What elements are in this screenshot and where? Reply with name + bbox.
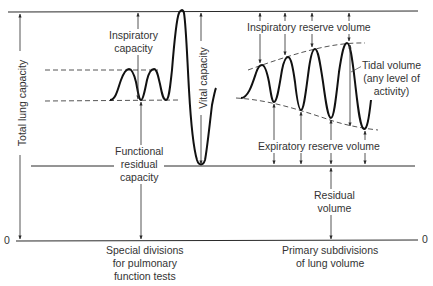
residual-volume-line-1: Residual — [314, 189, 355, 202]
vital-capacity-label: Vital capacity — [197, 41, 209, 115]
total-lung-capacity-label: Total lung capacity — [16, 51, 28, 155]
inspiratory-capacity-line-2: capacity — [109, 42, 158, 55]
residual-volume-line-2: volume — [314, 202, 355, 215]
zero-baseline — [16, 240, 418, 241]
spirogram-right-curve — [241, 43, 371, 129]
total-lung-capacity-line — [8, 11, 418, 12]
tidal-volume-label: Tidal volume (any level of activity) — [361, 59, 422, 98]
frc-line-1: Functional — [115, 145, 163, 158]
residual-volume-label: Residual volume — [313, 189, 356, 215]
zero-label-left: 0 — [4, 234, 10, 247]
lung-volume-diagram: 0 0 Total lung capacity Inspiratory capa… — [0, 0, 433, 286]
frc-line-3: capacity — [115, 171, 163, 184]
primary-caption-line-2: of lung volume — [282, 257, 378, 270]
tidal-volume-line-2: (any level of — [362, 72, 421, 85]
special-caption-line-1: Special divisions — [106, 244, 184, 257]
inspiratory-reserve-volume-label: Inspiratory reserve volume — [246, 21, 372, 34]
expiratory-reserve-volume-label: Expiratory reserve volume — [257, 140, 381, 153]
tidal-volume-line-1: Tidal volume — [362, 59, 421, 72]
inspiratory-capacity-line-1: Inspiratory — [109, 29, 158, 42]
primary-subdivisions-caption: Primary subdivisions of lung volume — [282, 244, 378, 270]
right-dashed-upper-envelope — [248, 43, 365, 70]
zero-label-right: 0 — [422, 233, 428, 246]
frc-line-2: residual — [115, 158, 163, 171]
functional-residual-capacity-label: Functional residual capacity — [114, 145, 164, 184]
special-caption-line-3: function tests — [106, 270, 184, 283]
primary-caption-line-1: Primary subdivisions — [282, 244, 378, 257]
special-divisions-caption: Special divisions for pulmonary function… — [106, 244, 184, 283]
tidal-volume-line-3: activity) — [362, 85, 421, 98]
special-caption-line-2: for pulmonary — [106, 257, 184, 270]
inspiratory-capacity-label: Inspiratory capacity — [108, 29, 159, 55]
